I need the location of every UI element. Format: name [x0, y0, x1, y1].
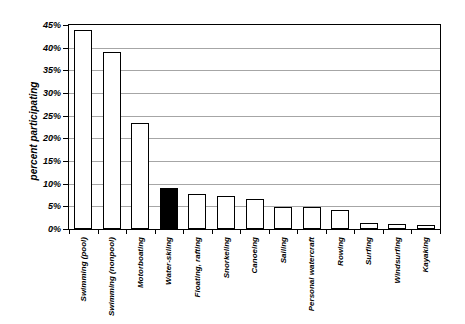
y-tick-mark-30	[63, 93, 68, 94]
gridline-25	[69, 116, 440, 117]
x-tick-mark-11	[383, 230, 384, 234]
bar-floating-rafting	[188, 194, 206, 229]
x-category-label-rowing: Rowing	[336, 237, 345, 266]
x-tick-mark-1	[98, 230, 99, 234]
x-tick-mark-3	[155, 230, 156, 234]
y-tick-mark-10	[63, 184, 68, 185]
gridline-20	[69, 138, 440, 139]
y-tick-mark-20	[63, 138, 68, 139]
y-tick-label-40: 40%	[0, 43, 61, 53]
bar-swimming-pool	[74, 30, 92, 229]
x-tick-mark-0	[69, 230, 70, 234]
x-tick-mark-7	[269, 230, 270, 234]
gridline-10	[69, 184, 440, 185]
x-tick-mark-6	[240, 230, 241, 234]
gridline-30	[69, 93, 440, 94]
y-tick-label-0: 0%	[0, 224, 61, 234]
bar-snorkeling	[217, 196, 235, 229]
bar-personal-watercraft	[303, 207, 321, 229]
bar-canoeing	[246, 199, 264, 229]
y-tick-mark-0	[63, 229, 68, 230]
y-tick-mark-15	[63, 161, 68, 162]
bar-swimming-nonpool	[103, 52, 121, 229]
y-tick-label-15: 15%	[0, 156, 61, 166]
x-tick-mark-5	[212, 230, 213, 234]
bar-kayaking	[417, 225, 435, 229]
x-tick-mark-12	[411, 230, 412, 234]
x-category-label-swimming-pool: Swimming (pool)	[79, 237, 88, 301]
gridline-40	[69, 48, 440, 49]
bar-surfing	[360, 223, 378, 229]
water-recreation-participation-chart: percent participating 0%5%10%15%20%25%30…	[0, 0, 465, 324]
x-tick-mark-13	[440, 230, 441, 234]
y-tick-mark-40	[63, 48, 68, 49]
y-tick-mark-5	[63, 206, 68, 207]
x-category-label-floating-rafting: Floating, rafting	[193, 237, 202, 297]
y-tick-label-10: 10%	[0, 179, 61, 189]
bar-motorboating	[131, 123, 149, 229]
y-tick-label-5: 5%	[0, 201, 61, 211]
y-tick-mark-45	[63, 25, 68, 26]
y-tick-label-20: 20%	[0, 133, 61, 143]
gridline-35	[69, 70, 440, 71]
x-tick-mark-2	[126, 230, 127, 234]
bar-sailing	[274, 207, 292, 229]
x-category-label-canoeing: Canoeing	[250, 237, 259, 273]
y-tick-mark-25	[63, 116, 68, 117]
gridline-15	[69, 161, 440, 162]
x-category-label-surfing: Surfing	[364, 237, 373, 265]
bar-windsurfing	[388, 224, 406, 229]
x-category-label-kayaking: Kayaking	[421, 237, 430, 273]
x-category-label-motorboating: Motorboating	[136, 237, 145, 288]
x-category-label-windsurfing: Windsurfing	[393, 237, 402, 284]
y-tick-label-30: 30%	[0, 88, 61, 98]
x-category-label-snorkeling: Snorkeling	[222, 237, 231, 278]
x-tick-mark-9	[326, 230, 327, 234]
x-category-label-personal-watercraft: Personal watercraft	[307, 237, 316, 311]
x-category-label-swimming-nonpool: Swimming (nonpool)	[107, 237, 116, 316]
y-tick-label-25: 25%	[0, 111, 61, 121]
y-tick-label-35: 35%	[0, 65, 61, 75]
plot-area	[68, 24, 441, 230]
y-tick-label-45: 45%	[0, 20, 61, 30]
x-tick-mark-8	[297, 230, 298, 234]
x-tick-mark-10	[354, 230, 355, 234]
bar-rowing	[331, 210, 349, 229]
x-category-label-water-skiing: Water-skiing	[164, 237, 173, 285]
y-tick-mark-35	[63, 70, 68, 71]
bar-water-skiing	[160, 188, 178, 229]
x-category-label-sailing: Sailing	[279, 237, 288, 263]
x-tick-mark-4	[183, 230, 184, 234]
